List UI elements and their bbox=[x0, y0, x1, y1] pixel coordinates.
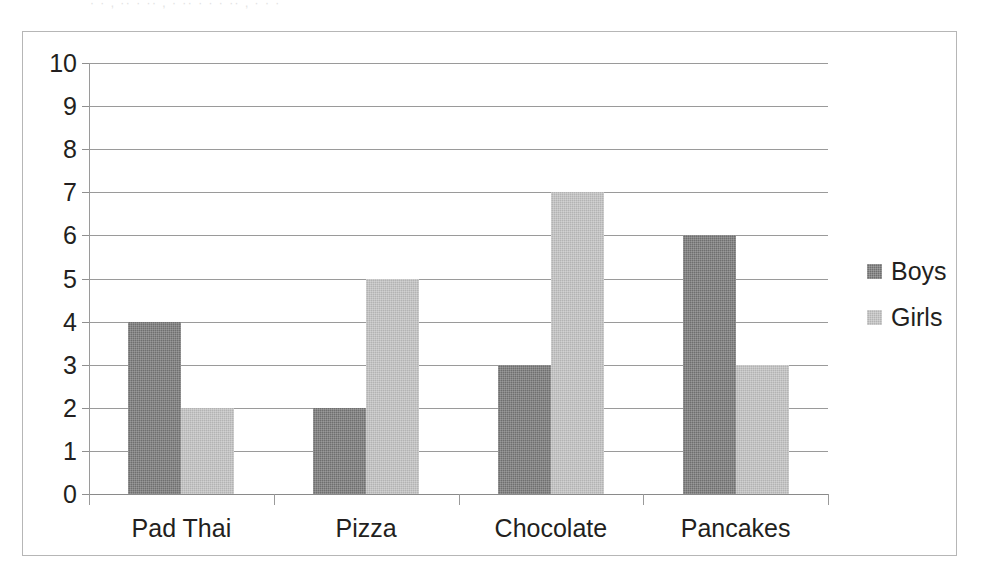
legend-label-boys: Boys bbox=[891, 257, 947, 286]
x-axis-label-pizza: Pizza bbox=[336, 514, 397, 543]
gridline-9 bbox=[89, 106, 828, 107]
y-axis-label-6: 6 bbox=[63, 221, 77, 250]
y-tick-5 bbox=[82, 279, 89, 280]
chart-legend: BoysGirls bbox=[867, 254, 947, 346]
y-axis-label-3: 3 bbox=[63, 350, 77, 379]
y-tick-4 bbox=[82, 322, 89, 323]
chart-frame: 012345678910 Pad ThaiPizzaChocolatePanca… bbox=[22, 31, 957, 556]
x-tick-3 bbox=[643, 494, 644, 505]
y-tick-7 bbox=[82, 192, 89, 193]
y-tick-9 bbox=[82, 106, 89, 107]
y-axis-label-8: 8 bbox=[63, 135, 77, 164]
y-axis-label-4: 4 bbox=[63, 307, 77, 336]
y-axis-label-1: 1 bbox=[63, 436, 77, 465]
gridline-7 bbox=[89, 192, 828, 193]
bar-girls-pizza[interactable] bbox=[366, 279, 419, 495]
bar-girls-chocolate[interactable] bbox=[551, 192, 604, 494]
y-tick-0 bbox=[82, 494, 89, 495]
legend-label-girls: Girls bbox=[891, 303, 942, 332]
y-tick-6 bbox=[82, 235, 89, 236]
y-axis-label-9: 9 bbox=[63, 92, 77, 121]
bar-girls-pancakes[interactable] bbox=[736, 365, 789, 494]
bar-boys-pizza[interactable] bbox=[313, 408, 366, 494]
x-axis-label-pad-thai: Pad Thai bbox=[132, 514, 232, 543]
x-tick-4 bbox=[828, 494, 829, 505]
legend-item-boys[interactable]: Boys bbox=[867, 254, 947, 288]
bar-boys-pancakes[interactable] bbox=[683, 235, 736, 494]
y-axis-label-5: 5 bbox=[63, 264, 77, 293]
gridline-8 bbox=[89, 149, 828, 150]
legend-item-girls[interactable]: Girls bbox=[867, 300, 947, 334]
y-tick-1 bbox=[82, 451, 89, 452]
x-axis-label-pancakes: Pancakes bbox=[681, 514, 791, 543]
gridline-10 bbox=[89, 63, 828, 64]
y-axis-label-7: 7 bbox=[63, 178, 77, 207]
y-axis-label-10: 10 bbox=[49, 49, 77, 78]
y-tick-3 bbox=[82, 365, 89, 366]
x-tick-2 bbox=[459, 494, 460, 505]
y-tick-2 bbox=[82, 408, 89, 409]
x-axis-label-chocolate: Chocolate bbox=[495, 514, 608, 543]
x-tick-1 bbox=[274, 494, 275, 505]
boys-swatch-icon bbox=[867, 264, 882, 279]
plot-area: 012345678910 bbox=[89, 63, 828, 494]
y-axis-label-0: 0 bbox=[63, 480, 77, 509]
scanned-text-fragment: · · , ·· · ·· , · ·· · · · ·· , · · · bbox=[0, 0, 988, 14]
x-tick-0 bbox=[89, 494, 90, 505]
y-tick-8 bbox=[82, 149, 89, 150]
bar-girls-pad-thai[interactable] bbox=[181, 408, 234, 494]
y-tick-10 bbox=[82, 63, 89, 64]
y-axis-label-2: 2 bbox=[63, 393, 77, 422]
bar-boys-pad-thai[interactable] bbox=[128, 322, 181, 494]
bar-boys-chocolate[interactable] bbox=[498, 365, 551, 494]
girls-swatch-icon bbox=[867, 310, 882, 325]
